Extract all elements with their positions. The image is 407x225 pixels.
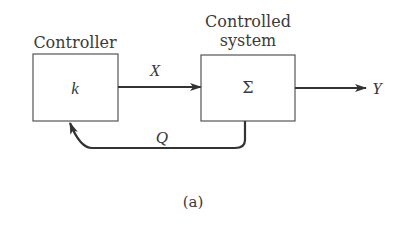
controlled-system-title-line2: system [220, 31, 277, 50]
figure-caption: (a) [183, 193, 204, 211]
controller-title: Controller [33, 33, 117, 52]
controlled-system-symbol: Σ [242, 78, 253, 97]
control-loop-diagram: Controller k X Controlled system Σ Y Q (… [0, 0, 407, 225]
feedback-signal: Q [70, 121, 245, 148]
controller-block: Controller k [33, 33, 118, 121]
controlled-system-title-line1: Controlled [205, 12, 291, 31]
controller-gain-symbol: k [71, 79, 79, 98]
output-signal: Y [295, 79, 383, 98]
feedback-signal-label: Q [156, 128, 168, 147]
controlled-system-block: Controlled system Σ [201, 12, 295, 121]
forward-signal-label: X [149, 61, 161, 80]
forward-signal: X [118, 61, 201, 87]
output-signal-label: Y [372, 79, 383, 98]
